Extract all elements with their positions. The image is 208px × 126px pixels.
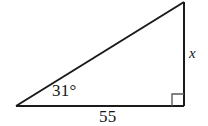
- right-angle-square-icon: [172, 94, 184, 106]
- base-length-label: 55: [99, 108, 116, 125]
- height-length-label: x: [189, 46, 196, 61]
- triangle-diagram: 31° 55 x: [0, 0, 208, 126]
- triangle-hypotenuse-line: [16, 2, 184, 106]
- angle-label: 31°: [52, 82, 76, 99]
